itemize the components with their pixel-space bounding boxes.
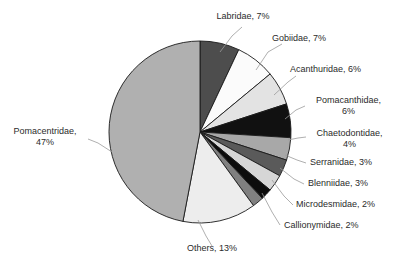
slice-label-pomacentridae: Pomacentridae, 47%	[2, 126, 88, 148]
leader-line-blenniidae	[280, 168, 304, 184]
slice-label-chaetodontidae: Chaetodontidae, 4%	[302, 128, 397, 150]
slice-label-chaetodontidae-value: 4%	[302, 139, 397, 150]
slice-label-microdesmidae: Microdesmidae, 2%	[296, 199, 397, 210]
slice-label-others-text: Others, 13%	[166, 243, 258, 254]
pie-slice-pomacentridae[interactable]: Pomacentridae, 47%	[109, 41, 200, 221]
leader-line-callionymidae	[262, 193, 280, 225]
slice-label-acanthuridae: Acanthuridae, 6%	[290, 64, 397, 75]
slice-label-serranidae-text: Serranidae, 3%	[310, 157, 397, 168]
slice-label-pomacanthidae-value: 6%	[300, 106, 397, 117]
slice-label-gobiidae-text: Gobiidae, 7%	[272, 33, 392, 44]
slice-label-callionymidae-text: Callionymidae, 2%	[284, 220, 397, 231]
leader-line-serranidae	[285, 155, 306, 163]
slice-label-gobiidae: Gobiidae, 7%	[272, 33, 392, 44]
pie-chart-figure: Labridae, 7%Gobiidae, 7%Acanthuridae, 6%…	[0, 0, 397, 268]
leader-line-pomacentridae	[88, 139, 112, 152]
slice-label-blenniidae-text: Blenniidae, 3%	[308, 178, 397, 189]
slice-label-microdesmidae-text: Microdesmidae, 2%	[296, 199, 397, 210]
slice-label-serranidae: Serranidae, 3%	[310, 157, 397, 168]
slice-label-pomacanthidae-name: Pomacanthidae,	[300, 95, 397, 106]
slice-label-callionymidae: Callionymidae, 2%	[284, 220, 397, 231]
slice-label-blenniidae: Blenniidae, 3%	[308, 178, 397, 189]
slice-label-others: Others, 13%	[166, 243, 258, 254]
slice-label-pomacentridae-value: 47%	[2, 137, 88, 148]
slice-label-pomacanthidae: Pomacanthidae, 6%	[300, 95, 397, 117]
slice-label-acanthuridae-text: Acanthuridae, 6%	[290, 64, 397, 75]
slice-label-labridae-text: Labridae, 7%	[188, 11, 298, 22]
slice-label-pomacentridae-name: Pomacentridae,	[2, 126, 88, 137]
slice-label-labridae: Labridae, 7%	[188, 11, 298, 22]
slice-label-chaetodontidae-name: Chaetodontidae,	[302, 128, 397, 139]
leader-line-microdesmidae	[272, 180, 293, 205]
